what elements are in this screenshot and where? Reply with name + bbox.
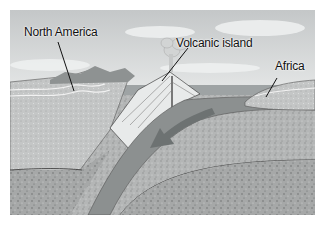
label-volcanic-island: Volcanic island	[176, 36, 252, 50]
subduction-diagram: North America Volcanic island Africa	[10, 10, 315, 215]
diagram-illustration	[10, 10, 315, 215]
label-africa: Africa	[275, 59, 304, 73]
label-north-america: North America	[24, 25, 97, 39]
